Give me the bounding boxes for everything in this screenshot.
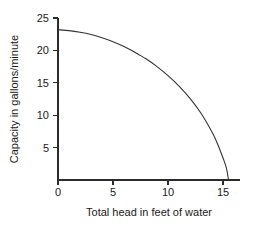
y-tick-label-20: 20 bbox=[37, 44, 49, 56]
x-tick-label-15: 15 bbox=[217, 186, 229, 198]
y-tick-label-10: 10 bbox=[37, 109, 49, 121]
y-tick-label-5: 5 bbox=[43, 142, 49, 154]
y-tick-label-25: 25 bbox=[37, 12, 49, 24]
y-tick-label-15: 15 bbox=[37, 77, 49, 89]
chart-page: 25 20 15 10 5 0 5 10 15 Total head in fe… bbox=[0, 0, 258, 231]
x-tick-label-0: 0 bbox=[55, 186, 61, 198]
x-tick-label-10: 10 bbox=[162, 186, 174, 198]
capacity-vs-head-chart: 25 20 15 10 5 0 5 10 15 Total head in fe… bbox=[0, 0, 258, 231]
x-axis-title: Total head in feet of water bbox=[86, 206, 212, 218]
y-axis-title: Capacity in gallons/minute bbox=[8, 35, 20, 163]
x-tick-label-5: 5 bbox=[110, 186, 116, 198]
